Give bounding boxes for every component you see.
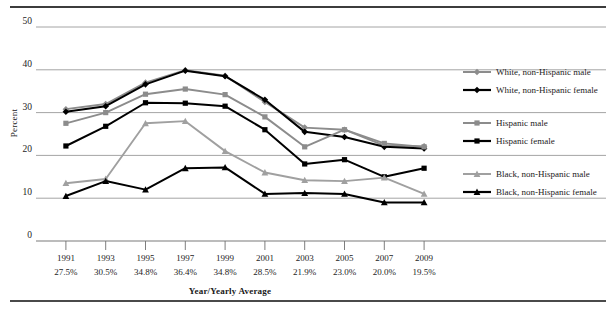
axis-ticks bbox=[66, 241, 424, 250]
y-axis-tick-label: 40 bbox=[14, 59, 32, 69]
x-axis-yearly-average-label: 27.5% bbox=[46, 267, 86, 277]
chart-figure: 01020304050 199127.5%199330.5%199534.8%1… bbox=[0, 0, 614, 315]
x-axis-yearly-average-label: 21.9% bbox=[285, 267, 325, 277]
y-axis-tick-label: 10 bbox=[14, 187, 32, 197]
x-axis-year-label: 1991 bbox=[46, 253, 86, 263]
x-axis-yearly-average-label: 34.8% bbox=[126, 267, 166, 277]
x-axis-yearly-average-label: 23.0% bbox=[325, 267, 365, 277]
legend-swatch-diamond-icon bbox=[462, 66, 492, 78]
legend-swatch-triangle-icon bbox=[462, 168, 492, 180]
legend-item-label: Hispanic male bbox=[496, 117, 548, 129]
legend-item-label: White, non-Hispanic male bbox=[496, 66, 591, 78]
x-axis-year-label: 2003 bbox=[285, 253, 325, 263]
x-axis-year-label: 1993 bbox=[86, 253, 126, 263]
legend-swatch-triangle-icon bbox=[462, 186, 492, 198]
legend-item-label: Black, non-Hispanic female bbox=[496, 186, 597, 198]
x-axis-year-label: 2001 bbox=[245, 253, 285, 263]
x-axis-yearly-average-label: 19.5% bbox=[404, 267, 444, 277]
x-axis-year-label: 1995 bbox=[126, 253, 166, 263]
x-axis-yearly-average-label: 28.5% bbox=[245, 267, 285, 277]
x-axis-yearly-average-label: 36.4% bbox=[165, 267, 205, 277]
x-axis-year-label: 2005 bbox=[325, 253, 365, 263]
x-axis-yearly-average-label: 34.8% bbox=[205, 267, 245, 277]
legend-swatch-square-icon bbox=[462, 135, 492, 147]
legend-item-label: Black, non-Hispanic male bbox=[496, 168, 590, 180]
x-axis-year-label: 1999 bbox=[205, 253, 245, 263]
legend-swatch-square-icon bbox=[462, 117, 492, 129]
x-axis-year-label: 2007 bbox=[364, 253, 404, 263]
legend-item-label: White, non-Hispanic female bbox=[496, 84, 598, 96]
x-axis-yearly-average-label: 20.0% bbox=[364, 267, 404, 277]
series-lines bbox=[63, 67, 428, 205]
legend-item-label: Hispanic female bbox=[496, 135, 555, 147]
y-axis-title: Percent bbox=[9, 93, 19, 153]
x-axis-year-label: 1997 bbox=[165, 253, 205, 263]
legend-swatch-diamond-icon bbox=[462, 84, 492, 96]
x-axis-title: Year/Yearly Average bbox=[120, 286, 340, 296]
x-axis-yearly-average-label: 30.5% bbox=[86, 267, 126, 277]
y-axis-tick-label: 50 bbox=[14, 16, 32, 26]
y-axis-tick-label: 0 bbox=[14, 230, 32, 240]
x-axis-year-label: 2009 bbox=[404, 253, 444, 263]
